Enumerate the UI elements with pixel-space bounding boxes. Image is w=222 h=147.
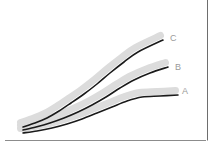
curve-shadow-group: [21, 36, 176, 129]
curve-label-c: C: [170, 33, 177, 43]
curve-line-group: [23, 40, 178, 133]
curve-label-a: A: [182, 86, 188, 96]
figure-canvas: A B C: [0, 0, 222, 147]
curve-chart-svg: A B C: [0, 0, 222, 147]
curve-label-b: B: [175, 62, 181, 72]
curve-label-group: A B C: [170, 33, 188, 96]
